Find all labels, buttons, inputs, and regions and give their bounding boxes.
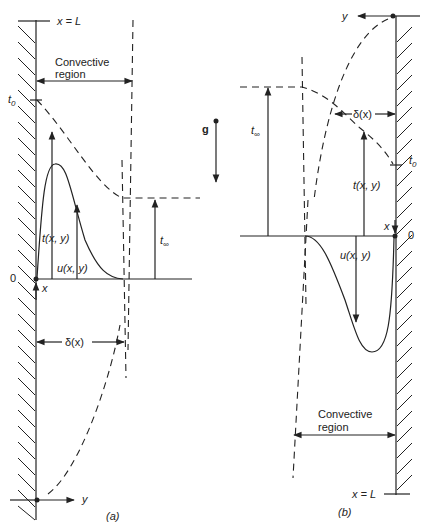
convective-region-label-b: Convective [318, 408, 372, 420]
u-label-b: u(x, y) [340, 249, 371, 261]
convective-boundary-dashed-b [293, 200, 308, 478]
gravity-indicator: g [202, 119, 219, 183]
x-label-b: x [383, 220, 390, 232]
tinf-label-a: t∞ [160, 234, 169, 249]
gravity-label: g [202, 123, 209, 135]
t-label-a: t(x, y) [42, 232, 70, 244]
panel-a: x = L Convective region t0 t(x, y) u(x, … [8, 15, 200, 522]
x-equals-L-label-a: x = L [56, 15, 81, 27]
boundary-layer-dashed-b [302, 57, 306, 305]
natural-convection-boundary-layer-figure: x = L Convective region t0 t(x, y) u(x, … [0, 0, 427, 531]
x-equals-L-label-b: x = L [351, 488, 376, 500]
t0-label-b: t0 [409, 154, 417, 169]
panel-b: y t∞ δ(x) t0 t(x, y) u(x, y) 0 [240, 10, 420, 518]
delta-label-a: δ(x) [65, 336, 84, 348]
origin-label-a: 0 [10, 272, 16, 284]
wall-hatching-b [397, 27, 412, 490]
temperature-profile-a [37, 100, 200, 198]
x-label-a: x [41, 282, 48, 294]
caption-b: (b) [338, 506, 352, 518]
origin-label-b: 0 [408, 229, 414, 241]
convective-region-label-b-line2: region [318, 421, 349, 433]
convective-boundary-dashed-a [128, 20, 133, 350]
velocity-envelope-dashed-b [314, 19, 388, 200]
temperature-profile-b [240, 87, 393, 164]
t0-label-a: t0 [8, 93, 16, 108]
velocity-envelope-dashed-a [48, 325, 120, 494]
delta-label-b: δ(x) [353, 108, 372, 120]
boundary-layer-dashed-a [122, 160, 126, 378]
tinf-label-b: t∞ [251, 124, 260, 139]
convective-region-label-a: Convective [55, 56, 109, 68]
y-label-b: y [341, 10, 349, 22]
convective-region-label-a-line2: region [55, 68, 86, 80]
t-label-b: t(x, y) [353, 179, 381, 191]
u-label-a: u(x, y) [57, 262, 88, 274]
caption-a: (a) [106, 510, 120, 522]
y-label-a: y [81, 493, 89, 505]
